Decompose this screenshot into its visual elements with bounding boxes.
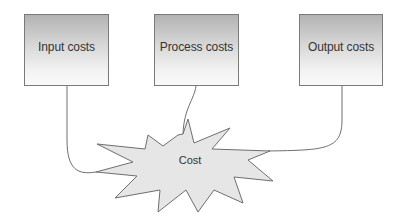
cost-label: Cost	[160, 154, 220, 166]
output-costs-box: Output costs	[299, 14, 383, 86]
input-costs-label: Input costs	[38, 40, 95, 54]
diagram-canvas: Input costs Process costs Output costs C…	[0, 0, 403, 218]
process-costs-label: Process costs	[160, 40, 233, 54]
input-costs-box: Input costs	[24, 14, 109, 86]
connector-input-to-cost	[67, 86, 96, 173]
connector-output-to-cost	[268, 86, 342, 151]
output-costs-label: Output costs	[308, 40, 374, 54]
process-costs-box: Process costs	[154, 14, 239, 86]
